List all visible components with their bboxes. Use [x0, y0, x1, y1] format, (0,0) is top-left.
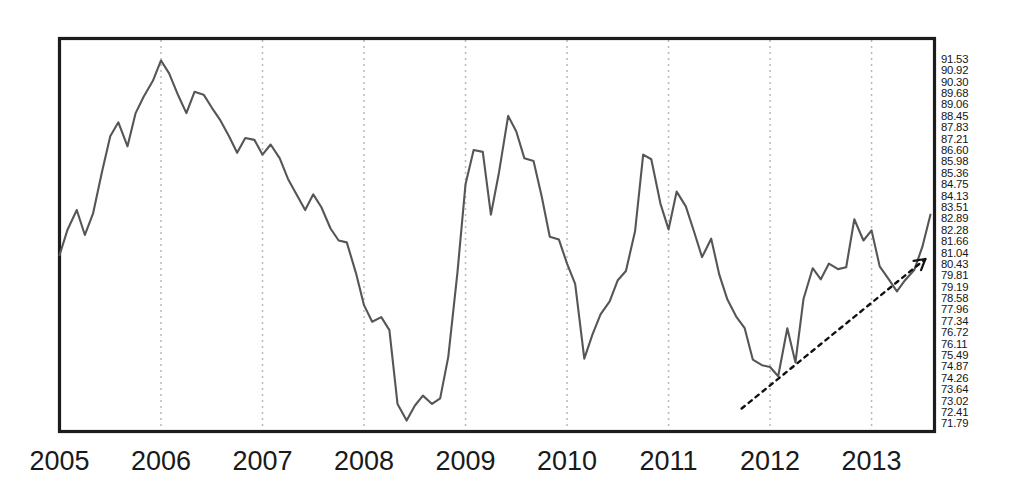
y-tick-label: 79.81	[941, 269, 968, 281]
y-tick-label: 86.60	[941, 144, 968, 156]
chart-background	[0, 0, 1023, 503]
y-tick-label: 73.64	[941, 383, 968, 395]
y-tick-label: 81.66	[941, 235, 968, 247]
y-tick-label: 85.36	[941, 167, 968, 179]
y-tick-label: 90.92	[941, 64, 968, 76]
chart-canvas: 91.5390.9290.3089.6889.0688.4587.8387.21…	[0, 0, 1023, 503]
y-tick-label: 83.51	[941, 201, 968, 213]
y-tick-label: 89.06	[941, 98, 968, 110]
y-tick-label: 90.30	[941, 76, 968, 88]
x-tick-label-2009: 2009	[435, 446, 495, 476]
y-tick-label: 77.34	[941, 315, 968, 327]
y-tick-label: 91.53	[941, 53, 968, 65]
y-tick-label: 71.79	[941, 417, 968, 429]
y-tick-label: 81.04	[941, 247, 968, 259]
x-tick-label-2011: 2011	[640, 446, 698, 476]
line-chart-figure: 91.5390.9290.3089.6889.0688.4587.8387.21…	[0, 0, 1023, 503]
y-tick-label: 89.68	[941, 87, 968, 99]
y-tick-label: 77.96	[941, 303, 968, 315]
x-tick-label-2008: 2008	[334, 446, 394, 476]
y-tick-label: 73.02	[941, 395, 968, 407]
y-tick-label: 87.83	[941, 121, 968, 133]
y-tick-label: 88.45	[941, 110, 968, 122]
x-tick-label-2005: 2005	[29, 446, 89, 476]
y-tick-label: 78.58	[941, 292, 968, 304]
x-tick-label-2010: 2010	[537, 446, 597, 476]
y-tick-label: 82.89	[941, 212, 968, 224]
y-tick-label: 87.21	[941, 133, 968, 145]
y-tick-label: 76.11	[941, 338, 967, 350]
x-tick-label-2012: 2012	[740, 446, 800, 476]
y-axis-tick-labels: 91.5390.9290.3089.6889.0688.4587.8387.21…	[941, 53, 968, 430]
y-tick-label: 85.98	[941, 155, 968, 167]
x-axis-tick-labels: 200520062007200820092010201120122013	[29, 446, 901, 476]
y-tick-label: 74.26	[941, 372, 968, 384]
y-tick-label: 82.28	[941, 224, 968, 236]
y-tick-label: 75.49	[941, 349, 968, 361]
y-tick-label: 84.75	[941, 178, 968, 190]
y-tick-label: 74.87	[941, 360, 968, 372]
x-tick-label-2006: 2006	[131, 446, 191, 476]
y-tick-label: 76.72	[941, 326, 968, 338]
y-tick-label: 79.19	[941, 281, 968, 293]
y-tick-label: 80.43	[941, 258, 968, 270]
x-tick-label-2013: 2013	[842, 446, 902, 476]
x-tick-label-2007: 2007	[232, 446, 292, 476]
y-tick-label: 72.41	[941, 406, 968, 418]
y-tick-label: 84.13	[941, 190, 968, 202]
